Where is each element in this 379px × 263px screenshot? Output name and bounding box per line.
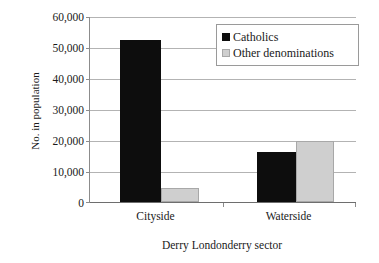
- x-axis-title: Derry Londonderry sector: [89, 238, 355, 252]
- y-tickmark-60000: [86, 17, 90, 18]
- bar-cityside-other-denominations: [161, 188, 199, 202]
- y-axis-tick-labels: 60,000 50,000 40,000 30,000 20,000 10,00…: [32, 10, 84, 210]
- bar-cityside-catholics: [120, 40, 161, 202]
- y-tick-label-10000: 10,000: [32, 166, 84, 179]
- y-tick-label-50000: 50,000: [32, 42, 84, 55]
- bar-waterside-other-denominations: [296, 141, 334, 202]
- x-tick-label-cityside: Cityside: [89, 209, 222, 223]
- y-tickmark-30000: [86, 110, 90, 111]
- gray-square-icon: [222, 49, 230, 57]
- legend-item-other-denominations: Other denominations: [222, 45, 353, 61]
- x-axis-category-separator: [355, 203, 356, 207]
- x-tick-label-waterside: Waterside: [222, 209, 355, 223]
- black-square-icon: [222, 33, 230, 41]
- legend-item-catholics: Catholics: [222, 29, 353, 45]
- y-tick-label-30000: 30,000: [32, 104, 84, 117]
- y-tickmark-10000: [86, 172, 90, 173]
- gridline-60000: [90, 17, 356, 18]
- y-tickmark-40000: [86, 79, 90, 80]
- y-tickmark-20000: [86, 141, 90, 142]
- y-tick-label-40000: 40,000: [32, 73, 84, 86]
- bar-waterside-catholics: [257, 152, 296, 202]
- x-axis-category-separator: [223, 203, 224, 207]
- y-tick-label-60000: 60,000: [32, 11, 84, 24]
- legend-label-other-denominations: Other denominations: [233, 46, 334, 61]
- y-tickmark-50000: [86, 48, 90, 49]
- chart-legend: Catholics Other denominations: [216, 24, 359, 66]
- legend-label-catholics: Catholics: [233, 30, 278, 45]
- y-tick-label-20000: 20,000: [32, 135, 84, 148]
- y-tick-label-0: 0: [32, 197, 84, 210]
- bar-chart: No. in population 60,000 50,000 40,000 3…: [0, 0, 379, 263]
